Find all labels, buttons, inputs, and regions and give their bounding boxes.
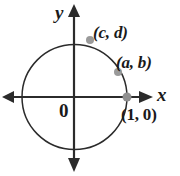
x-axis-right-arrow-icon (139, 91, 153, 103)
unit-circle-figure: y x 0 (c, d) (a, b) (1, 0) (0, 0, 180, 176)
origin-label: 0 (59, 101, 68, 120)
x-axis-left-arrow-icon (2, 91, 14, 103)
y-axis-down-arrow-icon (68, 158, 80, 172)
y-axis-label: y (55, 3, 63, 22)
y-axis-up-arrow-icon (68, 4, 80, 17)
x-axis-label: x (157, 85, 166, 104)
point-label-ab: (a, b) (116, 54, 152, 71)
unit-circle-graphic (0, 0, 180, 176)
point-label-cd: (c, d) (93, 24, 128, 41)
point-marker-1-0 (123, 93, 132, 102)
point-label-1-0: (1, 0) (121, 106, 157, 123)
